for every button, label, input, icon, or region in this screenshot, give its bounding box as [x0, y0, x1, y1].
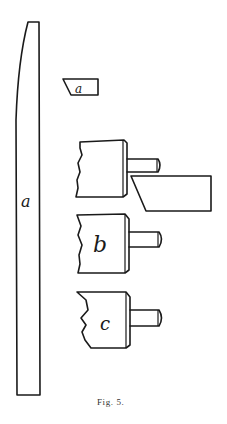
bar-label: a [21, 192, 31, 211]
figure-caption: Fig. 5. [97, 397, 124, 407]
tall-bar-a: a [16, 22, 40, 395]
block-b-label: b [93, 232, 107, 257]
upper-block [76, 140, 211, 211]
lower-block-c: c [77, 292, 162, 348]
figure-diagram: a a b c Fig. 5. [0, 0, 227, 424]
block-c-label: c [100, 313, 110, 334]
middle-block-b: b [77, 214, 162, 273]
wedge-label: a [75, 82, 82, 96]
wedge-a: a [63, 79, 98, 96]
